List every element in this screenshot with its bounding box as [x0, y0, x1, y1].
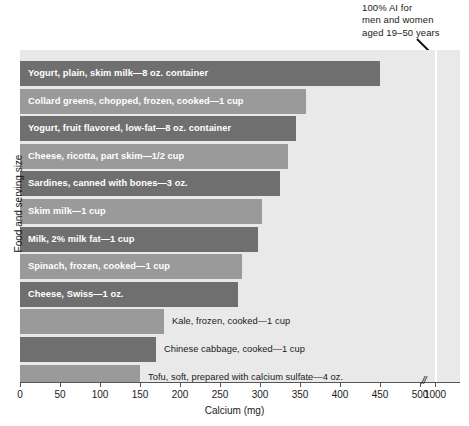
x-axis-line	[20, 382, 460, 383]
bar-label: Skim milk—1 cup	[28, 199, 106, 224]
ai-annotation-line-3: aged 19–50 years	[362, 27, 466, 39]
bar-label: Yogurt, fruit flavored, low-fat—8 oz. co…	[28, 116, 231, 141]
bar-label: Kale, frozen, cooked—1 cup	[172, 309, 290, 334]
bar-label: Spinach, frozen, cooked—1 cup	[28, 254, 170, 279]
x-axis-tick-label: 200	[172, 389, 189, 400]
x-axis-tick-label: 300	[252, 389, 269, 400]
bars-container: Yogurt, plain, skim milk—8 oz. container…	[20, 50, 460, 382]
bar-row: Sardines, canned with bones—3 oz.	[20, 171, 460, 196]
y-axis-title: Food and serving size	[13, 124, 24, 284]
ai-reference-line	[435, 50, 437, 382]
bar-label: Cheese, ricotta, part skim—1/2 cup	[28, 144, 184, 169]
chart-figure: 100% AI for men and women aged 19–50 yea…	[0, 0, 469, 426]
x-axis-tick-label: 150	[132, 389, 149, 400]
bar-label: Tofu, soft, prepared with calcium sulfat…	[148, 365, 343, 382]
bar-label: Cheese, Swiss—1 oz.	[28, 282, 124, 307]
bar-label: Chinese cabbage, cooked—1 cup	[164, 337, 305, 362]
bar-row: Yogurt, fruit flavored, low-fat—8 oz. co…	[20, 116, 460, 141]
x-axis-tick-label: 100	[92, 389, 109, 400]
x-axis-title: Calcium (mg)	[0, 405, 469, 416]
bar-row: Cheese, Swiss—1 oz.	[20, 282, 460, 307]
x-axis-tick	[100, 382, 101, 387]
bar-label: Sardines, canned with bones—3 oz.	[28, 171, 188, 196]
bar-row: Milk, 2% milk fat—1 cup	[20, 227, 460, 252]
bar-row: Cheese, ricotta, part skim—1/2 cup	[20, 144, 460, 169]
ai-annotation-line-1: 100% AI for	[362, 2, 466, 14]
bar-label: Milk, 2% milk fat—1 cup	[28, 227, 135, 252]
x-axis-tick	[180, 382, 181, 387]
x-axis-tick-label: 1000	[424, 389, 446, 400]
x-axis-tick-label: 400	[332, 389, 349, 400]
x-axis-tick	[20, 382, 21, 387]
bar-row: Kale, frozen, cooked—1 cup	[20, 309, 460, 334]
bar-label: Yogurt, plain, skim milk—8 oz. container	[28, 61, 208, 86]
bar-row: Spinach, frozen, cooked—1 cup	[20, 254, 460, 279]
bar	[20, 309, 164, 334]
x-axis-tick	[300, 382, 301, 387]
x-axis-tick	[260, 382, 261, 387]
bar	[20, 365, 140, 382]
x-axis-tick-label: 0	[17, 389, 23, 400]
x-axis-tick-label: 350	[292, 389, 309, 400]
axis-break-marker: //	[422, 374, 426, 386]
x-axis-tick	[380, 382, 381, 387]
bar-row: Chinese cabbage, cooked—1 cup	[20, 337, 460, 362]
bar-row: Tofu, soft, prepared with calcium sulfat…	[20, 365, 460, 382]
x-axis-tick	[220, 382, 221, 387]
ai-reference-annotation: 100% AI for men and women aged 19–50 yea…	[362, 2, 466, 39]
x-axis-tick	[435, 382, 436, 387]
x-axis-tick-label: 50	[54, 389, 65, 400]
bar-row: Collard greens, chopped, frozen, cooked—…	[20, 89, 460, 114]
plot-area: Yogurt, plain, skim milk—8 oz. container…	[20, 50, 460, 382]
ai-annotation-line-2: men and women	[362, 14, 466, 26]
x-axis-tick-label: 450	[372, 389, 389, 400]
x-axis-tick	[140, 382, 141, 387]
bar-row: Skim milk—1 cup	[20, 199, 460, 224]
bar-row: Yogurt, plain, skim milk—8 oz. container	[20, 61, 460, 86]
x-axis-tick	[340, 382, 341, 387]
bar-label: Collard greens, chopped, frozen, cooked—…	[28, 89, 244, 114]
x-axis-tick-label: 250	[212, 389, 229, 400]
bar	[20, 337, 156, 362]
x-axis-tick	[60, 382, 61, 387]
